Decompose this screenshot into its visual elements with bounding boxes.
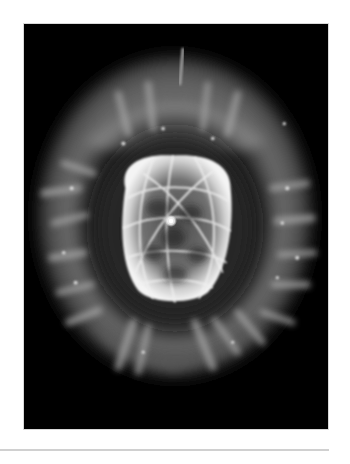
nebula-image: Grayscale telescope photograph of a plan… [23,23,329,430]
nebula-illustration [24,24,328,429]
divider [0,449,329,451]
central-star [165,215,177,227]
inner-shell [122,155,231,302]
